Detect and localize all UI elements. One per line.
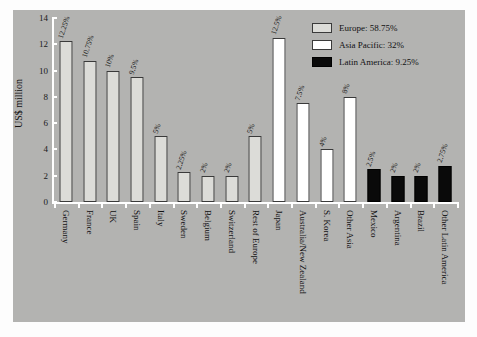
bar[interactable] — [320, 149, 333, 202]
bar-value-label: 12.5% — [270, 15, 283, 36]
bar-value-label: 2.25% — [175, 150, 188, 171]
bar[interactable] — [130, 77, 143, 202]
bar-slot: 9.5% — [125, 18, 149, 202]
legend-swatch-latam — [312, 57, 332, 67]
bar[interactable] — [296, 103, 309, 202]
legend-label: Europe: 58.75% — [339, 23, 398, 33]
x-tick-label: UK — [108, 210, 117, 223]
x-tick-mark — [244, 202, 246, 208]
bar-value-label: 10.75% — [80, 34, 94, 58]
x-tick-mark — [315, 202, 317, 208]
bar-value-label: 2% — [223, 162, 233, 174]
bar-slot: 12.5% — [267, 18, 291, 202]
bar-value-label: 2% — [199, 162, 209, 174]
x-tick-mark — [267, 202, 269, 208]
bar-value-label: 2.5% — [365, 150, 377, 167]
bar[interactable] — [107, 71, 120, 202]
x-tick-mark — [101, 202, 103, 208]
bar[interactable] — [415, 176, 428, 202]
bar-slot: 5% — [149, 18, 173, 202]
y-tick-label: 8 — [44, 92, 49, 101]
bar-slot: 2.25% — [173, 18, 197, 202]
y-tick-label: 12 — [39, 40, 48, 49]
chart-legend: Europe: 58.75%Asia Pacific: 32%Latin Ame… — [312, 19, 458, 70]
x-tick-label: Other Latin America — [440, 210, 449, 284]
bar[interactable] — [202, 176, 215, 202]
x-tick-label: S. Korea — [322, 210, 331, 242]
y-axis-title: US$ million — [13, 56, 24, 152]
x-tick-mark — [149, 202, 151, 208]
x-tick-label: Germany — [61, 210, 70, 244]
x-tick-mark — [433, 202, 435, 208]
bar-slot: 2% — [220, 18, 244, 202]
y-tick-label: 6 — [44, 119, 49, 128]
bar-value-label: 5% — [152, 122, 162, 134]
bar-value-label: 5% — [246, 122, 256, 134]
x-tick-label: France — [85, 210, 94, 235]
bar-slot: 10% — [101, 18, 125, 202]
bar[interactable] — [439, 166, 452, 202]
y-tick-label: 0 — [44, 198, 49, 207]
y-tick-label: 2 — [44, 171, 49, 180]
x-tick-label: Australia/New Zealand — [298, 210, 307, 294]
x-tick-label: Rest of Europe — [251, 210, 260, 264]
bar[interactable] — [59, 41, 72, 202]
legend-item[interactable]: Latin America: 9.25% — [312, 53, 458, 70]
y-tick-label: 14 — [39, 14, 48, 23]
x-tick-label: Mexico — [369, 210, 378, 238]
y-tick-label: 10 — [39, 66, 48, 75]
bar-value-label: 8% — [341, 83, 351, 95]
x-tick-label: Brazil — [416, 210, 425, 232]
x-tick-label: Belgium — [203, 210, 212, 241]
bar[interactable] — [154, 136, 167, 202]
x-tick-label: Argentina — [393, 210, 402, 246]
x-tick-mark — [173, 202, 175, 208]
bar-slot: 2% — [196, 18, 220, 202]
x-tick-label: Japan — [274, 210, 283, 231]
bar-value-label: 4% — [317, 136, 327, 148]
x-tick-mark — [386, 202, 388, 208]
bar-value-label: 2.75% — [436, 143, 449, 164]
legend-swatch-europe — [312, 23, 332, 33]
chart-figure: 02468101214 US$ million 12.25%10.75%10%9… — [0, 0, 477, 337]
bar[interactable] — [391, 176, 404, 202]
bar[interactable] — [344, 97, 357, 202]
bar-slot: 10.75% — [78, 18, 102, 202]
x-tick-label: Sweden — [179, 210, 188, 239]
x-tick-mark — [78, 202, 80, 208]
bar-value-label: 7.5% — [294, 84, 306, 101]
y-tick-label: 4 — [44, 145, 49, 154]
x-tick-mark — [220, 202, 222, 208]
bar[interactable] — [249, 136, 262, 202]
bar[interactable] — [273, 38, 286, 202]
bar[interactable] — [225, 176, 238, 202]
bar-slot: 5% — [244, 18, 268, 202]
x-tick-label: Spain — [132, 210, 141, 231]
bar-slot: 12.25% — [54, 18, 78, 202]
x-tick-mark — [196, 202, 198, 208]
legend-swatch-asia — [312, 40, 332, 50]
bar[interactable] — [178, 172, 191, 202]
x-axis-line — [52, 202, 457, 204]
legend-label: Latin America: 9.25% — [339, 57, 419, 67]
bar-value-label: 9.5% — [128, 58, 140, 75]
x-tick-mark — [125, 202, 127, 208]
x-tick-mark — [291, 202, 293, 208]
bar[interactable] — [83, 61, 96, 202]
x-tick-label: Switzerland — [227, 210, 236, 253]
x-tick-label: Other Asia — [345, 210, 354, 249]
bar[interactable] — [368, 169, 381, 202]
bar-value-label: 10% — [104, 53, 115, 68]
x-tick-mark — [54, 202, 56, 208]
legend-label: Asia Pacific: 32% — [339, 40, 404, 50]
bar-value-label: 2% — [389, 162, 399, 174]
bar-value-label: 12.25% — [57, 15, 71, 39]
x-tick-mark — [457, 202, 459, 208]
bar-value-label: 2% — [412, 162, 422, 174]
x-tick-mark — [338, 202, 340, 208]
x-tick-label: Italy — [156, 210, 165, 227]
legend-item[interactable]: Asia Pacific: 32% — [312, 36, 458, 53]
x-tick-mark — [410, 202, 412, 208]
x-tick-mark — [362, 202, 364, 208]
legend-item[interactable]: Europe: 58.75% — [312, 19, 458, 36]
